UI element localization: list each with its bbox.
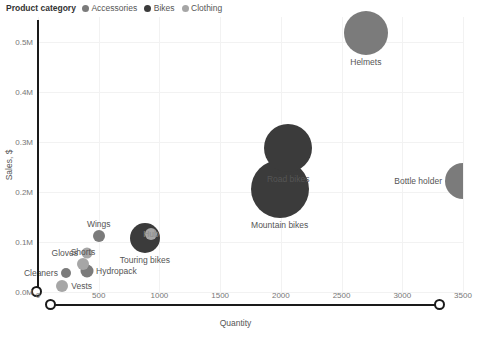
legend-item-label: Clothing <box>191 3 222 13</box>
x-axis-line <box>50 304 439 306</box>
x-axis-tick-label: 3500 <box>454 291 472 300</box>
y-axis-tick-label: 0.4M <box>15 88 33 97</box>
gridline-vertical <box>402 17 403 292</box>
point-label: Shorts <box>71 247 96 257</box>
point-label: Helmets <box>350 57 381 67</box>
y-axis-tick-label: 0.1M <box>15 238 33 247</box>
point-label: Road bikes <box>267 174 310 184</box>
gridline-horizontal <box>38 242 463 243</box>
point-label: Mountain bikes <box>251 220 308 230</box>
gridline-vertical <box>159 17 160 292</box>
gridline-vertical <box>220 17 221 292</box>
legend-swatch-icon <box>82 5 89 12</box>
legend-item-accessories[interactable]: Accessories <box>82 3 137 13</box>
y-axis-tick-label: 0.3M <box>15 138 33 147</box>
point-label: Hydropack <box>96 266 137 276</box>
x-axis-tick-label: 500 <box>92 291 105 300</box>
point-label: Vests <box>71 281 92 291</box>
y-axis-label: Sales, $ <box>4 140 14 190</box>
y-axis-tick-label: 0.5M <box>15 38 33 47</box>
legend-item-label: Accessories <box>91 3 137 13</box>
y-axis-tick-label: 0.2M <box>15 188 33 197</box>
x-axis-tick-label: 1000 <box>151 291 169 300</box>
x-axis-tick-label: 2000 <box>272 291 290 300</box>
gridline-horizontal <box>38 42 463 43</box>
legend-swatch-icon <box>144 5 151 12</box>
x-axis-label: Quantity <box>0 318 471 328</box>
bubble-bottle-holder[interactable] <box>445 163 477 199</box>
bubble-wings[interactable] <box>93 230 105 242</box>
gridline-vertical <box>99 17 100 292</box>
x-axis-tick-label: 0 <box>36 291 40 300</box>
point-label: Wings <box>87 219 111 229</box>
x-axis-tick-label: 3000 <box>393 291 411 300</box>
x-axis-range-handle-end[interactable] <box>434 299 445 310</box>
gridline-horizontal <box>38 92 463 93</box>
bubble-helmets[interactable] <box>344 11 388 55</box>
point-label: Bottle holder <box>394 176 442 186</box>
bubble-vests[interactable] <box>56 280 68 292</box>
point-label: Hub <box>143 229 159 239</box>
gridline-vertical <box>342 17 343 292</box>
x-axis-tick-label: 2500 <box>333 291 351 300</box>
gridline-vertical <box>463 17 464 292</box>
legend-item-bikes[interactable]: Bikes <box>144 3 174 13</box>
bubble-cleaners[interactable] <box>61 268 71 278</box>
gridline-horizontal <box>38 142 463 143</box>
y-axis-tick-label: 0.0M <box>15 288 33 297</box>
x-axis-range-handle-start[interactable] <box>45 299 56 310</box>
legend: Product category AccessoriesBikesClothin… <box>6 3 222 13</box>
point-label: Touring bikes <box>120 255 170 265</box>
legend-items: AccessoriesBikesClothing <box>82 3 222 13</box>
bubble-road-bikes[interactable] <box>264 124 312 172</box>
legend-item-label: Bikes <box>154 3 175 13</box>
x-axis-tick-label: 1500 <box>211 291 229 300</box>
bubble-shorts[interactable] <box>77 258 89 270</box>
plot-area: CleanersGlovesVestsShortsHubWingsHydropa… <box>38 17 463 292</box>
legend-item-clothing[interactable]: Clothing <box>182 3 223 13</box>
y-axis-line <box>37 20 39 292</box>
legend-swatch-icon <box>182 5 189 12</box>
